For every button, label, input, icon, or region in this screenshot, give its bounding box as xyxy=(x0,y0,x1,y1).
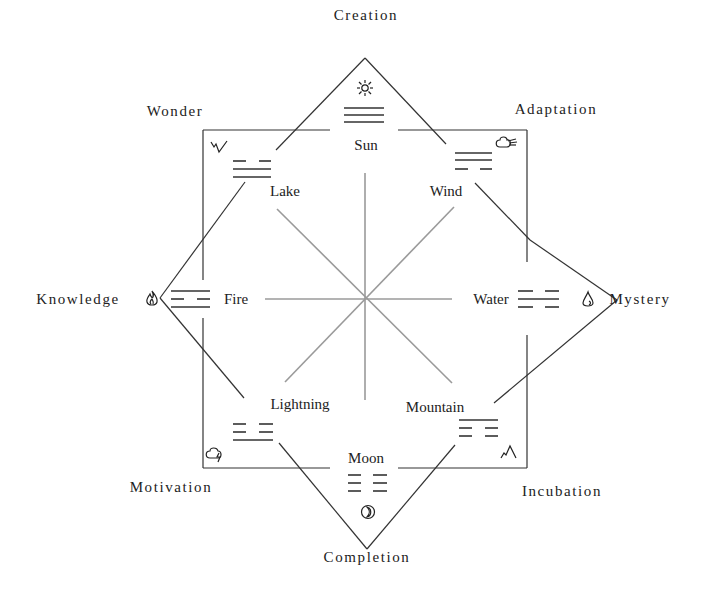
element-fire: Fire xyxy=(224,291,249,307)
trigram-lake xyxy=(233,161,271,177)
element-labels: Sun Wind Water Mountain Moon Lightning F… xyxy=(224,137,509,466)
element-water: Water xyxy=(473,291,508,307)
water-drop-icon xyxy=(583,292,593,306)
wind-cloud-icon xyxy=(496,137,517,147)
center-spokes xyxy=(265,173,454,400)
sun-icon xyxy=(357,80,373,96)
element-lake: Lake xyxy=(270,183,300,199)
trigram-water xyxy=(518,291,559,307)
trigram-lightning xyxy=(233,424,273,440)
moon-icon xyxy=(362,506,375,519)
label-incubation: Incubation xyxy=(522,483,602,499)
flame-icon xyxy=(147,291,157,305)
trigram-sun xyxy=(344,108,384,122)
spoke-diagonal-up xyxy=(285,207,454,382)
trigram-wind xyxy=(455,153,492,169)
element-moon: Moon xyxy=(348,450,384,466)
trigram-fire xyxy=(171,291,210,307)
label-wonder: Wonder xyxy=(147,103,204,119)
element-mountain: Mountain xyxy=(406,399,465,415)
label-mystery: Mystery xyxy=(609,291,670,307)
element-wind: Wind xyxy=(430,183,463,199)
element-lightning: Lightning xyxy=(270,396,330,412)
diagram-canvas: Creation Adaptation Mystery Incubation C… xyxy=(0,0,703,595)
element-sun: Sun xyxy=(354,137,378,153)
label-creation: Creation xyxy=(334,7,398,23)
label-knowledge: Knowledge xyxy=(36,291,120,307)
label-motivation: Motivation xyxy=(130,479,213,495)
trigram-moon xyxy=(348,475,387,491)
lake-zigzag-icon xyxy=(211,141,227,152)
label-adaptation: Adaptation xyxy=(515,101,598,117)
mountain-icon xyxy=(501,446,516,458)
label-completion: Completion xyxy=(324,549,411,565)
thunder-cloud-icon xyxy=(206,448,221,462)
bagua-diagram: Creation Adaptation Mystery Incubation C… xyxy=(0,0,703,595)
trigram-mountain xyxy=(459,420,498,436)
